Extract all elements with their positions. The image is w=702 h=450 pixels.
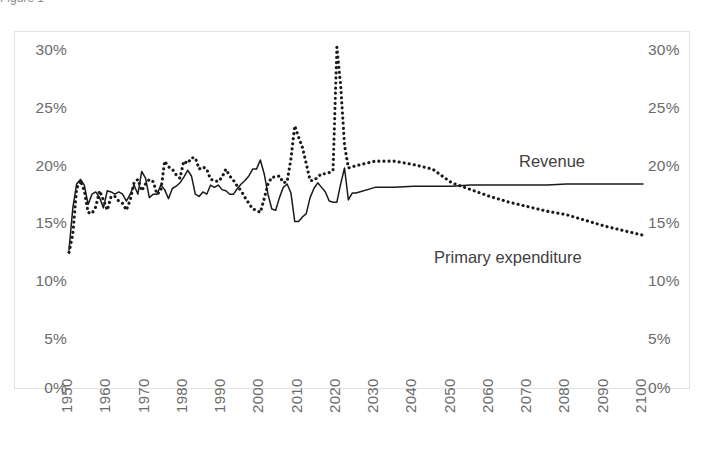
x-axis-tick-2080: 2080 xyxy=(555,378,572,413)
y-axis-left-tick-15: 15% xyxy=(14,214,67,232)
x-axis-tick-1950: 1950 xyxy=(58,378,75,413)
series-layer xyxy=(69,47,643,252)
x-axis-tick-2070: 2070 xyxy=(517,378,534,413)
x-axis-tick-1990: 1990 xyxy=(211,378,228,413)
x-axis-tick-2040: 2040 xyxy=(402,378,419,413)
x-axis-tick-2030: 2030 xyxy=(364,378,381,413)
x-axis-tick-2060: 2060 xyxy=(479,378,496,413)
x-axis-tick-1960: 1960 xyxy=(96,378,113,413)
y-axis-left-tick-30: 30% xyxy=(14,41,67,59)
series-line-primary-expenditure xyxy=(69,47,643,252)
x-axis-tick-2000: 2000 xyxy=(249,378,266,413)
x-axis-tick-2090: 2090 xyxy=(594,378,611,413)
y-axis-left-tick-10: 10% xyxy=(14,272,67,290)
y-axis-right-tick-15: 15% xyxy=(648,214,680,232)
y-axis-left-tick-20: 20% xyxy=(14,157,67,175)
x-axis-tick-2100: 2100 xyxy=(632,378,649,413)
x-axis-tick-1980: 1980 xyxy=(173,378,190,413)
y-axis-right-tick-10: 10% xyxy=(648,272,680,290)
y-axis-right-tick-5: 5% xyxy=(648,330,671,348)
series-annotation-revenue: Revenue xyxy=(519,152,585,171)
y-axis-right-tick-30: 30% xyxy=(648,41,680,59)
y-axis-left-tick-25: 25% xyxy=(14,99,67,117)
y-axis-left-tick-5: 5% xyxy=(14,330,67,348)
series-line-revenue xyxy=(69,160,643,250)
x-axis-tick-2020: 2020 xyxy=(326,378,343,413)
y-axis-right-tick-0: 0% xyxy=(648,379,671,397)
y-axis-right-tick-20: 20% xyxy=(648,157,680,175)
series-annotation-primary-expenditure: Primary expenditure xyxy=(434,248,582,267)
x-axis-tick-2050: 2050 xyxy=(441,378,458,413)
x-axis-tick-2010: 2010 xyxy=(288,378,305,413)
y-axis-right-tick-25: 25% xyxy=(648,99,680,117)
x-axis-tick-1970: 1970 xyxy=(135,378,152,413)
